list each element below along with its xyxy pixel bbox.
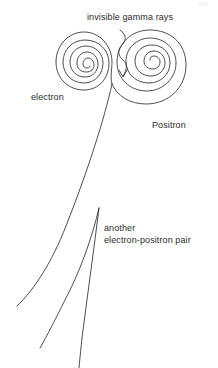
label-another-pair-line1: another — [104, 223, 135, 233]
label-invisible-gamma-rays: invisible gamma rays — [87, 12, 173, 23]
electron-spiral-icon — [56, 32, 112, 90]
positron-spiral-icon — [112, 30, 186, 104]
gamma-ray-squiggle-icon — [119, 30, 127, 76]
primary-particle-track — [17, 84, 112, 306]
pair-production-figure: 241 invisible gamma rays electron Positr… — [0, 0, 218, 368]
secondary-pair-track-right — [79, 208, 99, 368]
label-another-electron-positron-pair: anotherelectron-positron pair — [104, 222, 191, 246]
label-another-pair-line2: electron-positron pair — [104, 234, 191, 246]
particle-tracks-drawing — [0, 0, 218, 368]
label-electron: electron — [31, 92, 64, 103]
label-positron: Positron — [152, 120, 186, 131]
